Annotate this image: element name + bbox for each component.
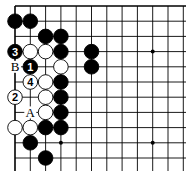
black-stone [84, 60, 99, 75]
black-stone [23, 136, 38, 151]
white-stone [8, 120, 23, 135]
black-stone [54, 44, 69, 59]
black-stone [38, 120, 53, 135]
move-number: 4 [27, 76, 34, 88]
black-stone [54, 105, 69, 120]
point-label: A [26, 105, 36, 120]
black-stone [38, 29, 53, 44]
white-stone [38, 75, 53, 90]
black-stone [23, 14, 38, 29]
white-stone [23, 44, 38, 59]
white-stone [38, 105, 53, 120]
white-stone [23, 120, 38, 135]
black-stone [54, 29, 69, 44]
black-stone [54, 75, 69, 90]
black-stone [54, 90, 69, 105]
move-number: 3 [12, 46, 18, 58]
go-board-diagram: BA 3142 [0, 0, 186, 171]
move-number: 1 [27, 61, 33, 73]
black-stone [54, 120, 69, 135]
point-label: B [11, 59, 20, 74]
black-stone [8, 14, 23, 29]
move-number: 2 [12, 91, 18, 103]
black-stone [38, 151, 53, 166]
star-point-icon [151, 141, 155, 145]
star-point-icon [59, 141, 63, 145]
black-stone [84, 44, 99, 59]
star-point-icon [151, 50, 155, 54]
white-stone [38, 44, 53, 59]
white-stone [54, 60, 69, 75]
white-stone [38, 90, 53, 105]
